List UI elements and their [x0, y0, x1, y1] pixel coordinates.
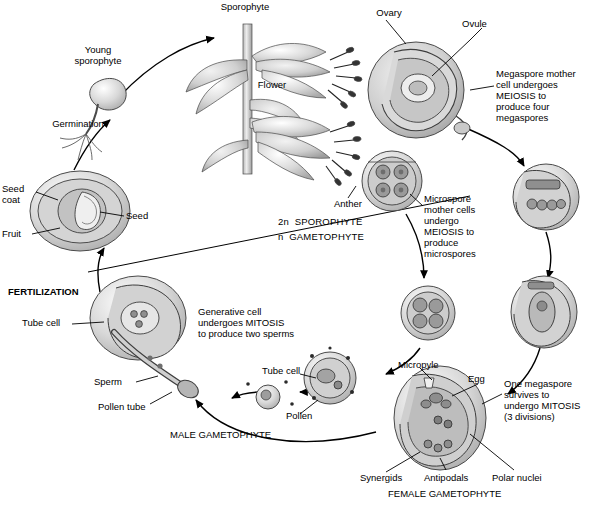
label-antipodals: Antipodals — [424, 473, 486, 484]
label-ovary: Ovary — [368, 8, 410, 19]
label-ovule: Ovule — [462, 19, 504, 30]
label-seed-coat: Seed coat — [2, 184, 36, 206]
label-anther: Anther — [326, 199, 370, 210]
label-tube-cell-left: Tube cell — [22, 318, 74, 329]
label-germination: Germination — [44, 119, 112, 130]
label-egg: Egg — [468, 374, 496, 385]
label-young-sporophyte: Young sporophyte — [63, 45, 133, 67]
label-megaspore-mother-cell: Megaspore mother cell undergoes MEIOSIS … — [496, 69, 608, 124]
label-sporophyte-ploidy: 2n SPOROPHYTE — [278, 217, 388, 228]
label-sporophyte: Sporophyte — [210, 2, 280, 13]
label-tube-cell-right: Tube cell — [262, 366, 314, 377]
label-pollen-tube: Pollen tube — [98, 402, 162, 413]
label-synergids: Synergids — [360, 473, 420, 484]
label-male-gametophyte: MALE GAMETOPHYTE — [170, 430, 302, 441]
label-microspore-mother-cells: Microspore mother cells undergo MEIOSIS … — [424, 194, 498, 260]
label-generative-cell: Generative cell undergoes MITOSIS to pro… — [198, 307, 318, 340]
label-sperm: Sperm — [94, 377, 136, 388]
life-cycle-diagram: Sporophyte Ovary Ovule Young sporophyte … — [0, 0, 609, 508]
label-flower: Flower — [248, 80, 296, 91]
label-pollen: Pollen — [286, 411, 328, 422]
label-fertilization: FERTILIZATION — [8, 287, 104, 298]
label-gametophyte-ploidy: n GAMETOPHYTE — [278, 232, 388, 243]
label-fruit: Fruit — [2, 229, 32, 240]
label-female-gametophyte: FEMALE GAMETOPHYTE — [388, 489, 538, 500]
label-micropyle: Micropyle — [398, 360, 456, 371]
label-seed: Seed — [126, 211, 160, 222]
label-one-megaspore: One megaspore survives to undergo MITOSI… — [504, 379, 606, 423]
label-polar-nuclei: Polar nuclei — [492, 473, 562, 484]
